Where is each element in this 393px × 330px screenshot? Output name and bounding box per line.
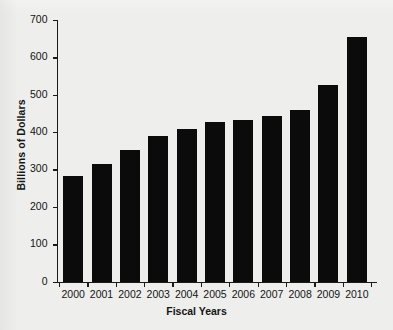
x-tick xyxy=(343,282,344,287)
bar-2006 xyxy=(233,120,253,281)
y-tick-label: 600 xyxy=(30,50,48,62)
bar-2009 xyxy=(318,85,338,282)
y-tick-500: 500 xyxy=(53,95,58,96)
bar-chart-figure: Billions of Dollars 01002003004005006007… xyxy=(0,0,393,330)
x-tick xyxy=(258,282,259,287)
x-tick xyxy=(286,282,287,287)
x-tick xyxy=(59,282,60,287)
x-tick xyxy=(116,282,117,287)
x-axis-line xyxy=(57,282,377,283)
y-tick-300: 300 xyxy=(53,169,58,170)
bar-2007 xyxy=(262,116,282,281)
y-tick-label: 300 xyxy=(30,162,48,174)
x-tick xyxy=(201,282,202,287)
bar-2008 xyxy=(290,110,310,282)
bar-2003 xyxy=(148,136,168,282)
y-tick-label: 400 xyxy=(30,125,48,137)
bar-2002 xyxy=(120,150,140,281)
bar-2000 xyxy=(63,176,83,281)
y-tick-label: 500 xyxy=(30,88,48,100)
y-tick-label: 0 xyxy=(42,275,48,287)
x-tick xyxy=(371,282,372,287)
x-tick-label-2010: 2010 xyxy=(337,288,377,300)
x-tick xyxy=(229,282,230,287)
bar-2005 xyxy=(205,122,225,281)
bar-2004 xyxy=(177,129,197,281)
y-tick-200: 200 xyxy=(53,207,58,208)
y-tick-0: 0 xyxy=(53,282,58,283)
y-tick-100: 100 xyxy=(53,244,58,245)
x-axis-title: Fiscal Years xyxy=(0,305,393,317)
x-tick xyxy=(314,282,315,287)
plot-area: 0100200300400500600700 20002001200220032… xyxy=(57,20,377,283)
y-tick-700: 700 xyxy=(53,20,58,21)
bar-2010 xyxy=(347,37,367,282)
y-axis-title-text: Billions of Dollars xyxy=(15,99,27,190)
y-tick-label: 200 xyxy=(30,200,48,212)
y-tick-label: 100 xyxy=(30,237,48,249)
y-tick-600: 600 xyxy=(53,57,58,58)
x-tick xyxy=(87,282,88,287)
y-axis-title: Billions of Dollars xyxy=(10,0,32,290)
y-tick-400: 400 xyxy=(53,132,58,133)
x-tick xyxy=(144,282,145,287)
y-tick-label: 700 xyxy=(30,13,48,25)
bar-2001 xyxy=(92,164,112,282)
x-tick xyxy=(172,282,173,287)
